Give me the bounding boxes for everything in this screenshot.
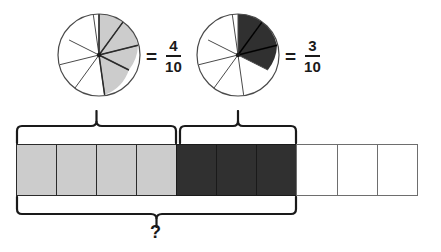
fraction-bar <box>305 55 320 57</box>
fraction-numerator: 4 <box>167 38 179 54</box>
tape-cell <box>176 144 217 196</box>
equation-four-tenths: = 4 10 <box>146 38 184 74</box>
equals-icon: = <box>285 47 296 66</box>
tape-cell <box>136 144 177 196</box>
tape-cell <box>216 144 257 196</box>
fraction-three-tenths: 3 10 <box>302 38 323 74</box>
equation-three-tenths: = 3 10 <box>285 38 323 74</box>
question-mark: ? <box>150 222 161 243</box>
fraction-denominator: 10 <box>163 58 184 74</box>
bracket-total-unknown <box>0 196 441 228</box>
fraction-denominator: 10 <box>302 58 323 74</box>
equals-icon: = <box>146 47 157 66</box>
tape-cell <box>256 144 297 196</box>
fraction-four-tenths: 4 10 <box>163 38 184 74</box>
tape-cell <box>377 144 418 196</box>
tape-cell <box>16 144 57 196</box>
pie-shaded-wedges <box>99 14 138 95</box>
tape-cell <box>337 144 378 196</box>
fraction-numerator: 3 <box>306 38 318 54</box>
pie-chart-four-tenths <box>56 12 142 98</box>
tape-cell <box>56 144 97 196</box>
pie-center-dot <box>236 53 240 57</box>
tape-cell <box>296 144 337 196</box>
pie-chart-row: = 4 10 <box>0 0 441 112</box>
pie-shaded-wedges <box>238 14 277 70</box>
tape-diagram <box>16 144 418 196</box>
pie-chart-three-tenths <box>195 12 281 98</box>
tape-diagram-area: ? <box>0 110 441 252</box>
top-brackets <box>0 110 441 144</box>
bracket-dark-group <box>180 111 296 143</box>
pie-center-dot <box>97 53 101 57</box>
tape-cell <box>96 144 137 196</box>
fraction-figure: = 4 10 <box>0 0 441 252</box>
fraction-bar <box>166 55 181 57</box>
bracket-light-group <box>17 111 176 143</box>
